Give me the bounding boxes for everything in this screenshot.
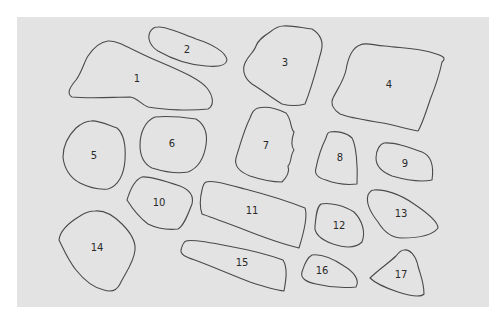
shape-12-label: 12 (333, 220, 346, 231)
shape-1-label: 1 (134, 73, 140, 84)
shape-4-label: 4 (386, 79, 392, 90)
shape-17-label: 17 (395, 269, 408, 280)
shapes-diagram: 1 2 3 4 5 6 7 8 9 10 (0, 0, 497, 321)
shape-16-label: 16 (316, 265, 329, 276)
shape-10-label: 10 (153, 197, 166, 208)
shape-8-label: 8 (337, 152, 343, 163)
shape-13-label: 13 (395, 208, 408, 219)
shape-3-label: 3 (282, 57, 288, 68)
shape-15-label: 15 (236, 257, 249, 268)
shape-2-label: 2 (184, 44, 190, 55)
shape-6-label: 6 (169, 138, 175, 149)
shape-11-label: 11 (246, 205, 259, 216)
shape-14-label: 14 (91, 242, 104, 253)
shape-6: 6 (140, 117, 207, 173)
shape-7-label: 7 (263, 140, 269, 151)
shape-5-label: 5 (91, 150, 97, 161)
shape-9-label: 9 (402, 158, 408, 169)
